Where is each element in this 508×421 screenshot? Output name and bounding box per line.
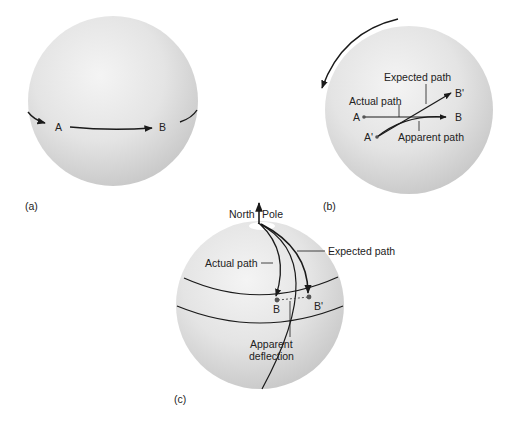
label-actual-path: Actual path — [349, 95, 402, 107]
label-point-a: A — [55, 121, 62, 133]
caption-a: (a) — [25, 200, 38, 212]
label-point-a-prime: A' — [364, 131, 373, 143]
coriolis-figure: A B (a) Expected path Actual path A B B'… — [0, 0, 508, 421]
panel-b: Expected path Actual path A B B' A' Appa… — [322, 19, 493, 212]
label-pole: Pole — [262, 208, 283, 220]
label-point-b: B — [273, 303, 280, 315]
label-point-a: A — [353, 111, 360, 123]
label-expected-path: Expected path — [384, 71, 451, 83]
label-north: North — [229, 208, 255, 220]
panel-c: North Pole Actual path Expected path B B… — [174, 203, 395, 405]
caption-c: (c) — [174, 393, 186, 405]
sphere-a — [28, 16, 198, 186]
label-expected-path: Expected path — [328, 245, 395, 257]
sphere-b — [325, 26, 493, 194]
label-deflection: deflection — [249, 350, 294, 362]
label-point-b-prime: B' — [314, 300, 323, 312]
caption-b: (b) — [323, 200, 336, 212]
point-b-dot — [275, 298, 280, 303]
panel-a: A B (a) — [25, 16, 198, 212]
label-point-b: B — [455, 111, 462, 123]
label-apparent-path: Apparent path — [398, 131, 464, 143]
point-b-prime-dot — [307, 295, 312, 300]
point-a-prime-dot — [375, 135, 379, 139]
point-a-dot — [362, 115, 366, 119]
label-apparent: Apparent — [250, 338, 293, 350]
label-point-b-prime: B' — [455, 87, 464, 99]
label-point-b: B — [159, 121, 166, 133]
label-actual-path: Actual path — [205, 257, 258, 269]
